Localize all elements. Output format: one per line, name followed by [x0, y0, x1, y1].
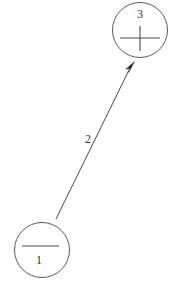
edge-node1-to-node3[interactable] [56, 62, 135, 220]
node-1[interactable]: 1 [15, 223, 70, 278]
edge-label-2: 2 [85, 132, 91, 146]
node-3[interactable]: 3 [113, 3, 168, 58]
node-1-circle [15, 223, 70, 278]
diagram-canvas: 2 3 1 [0, 0, 185, 282]
arrowhead-icon [126, 62, 135, 73]
diagram-svg: 2 3 1 [0, 0, 185, 282]
edge-line [56, 66, 131, 219]
node-1-label: 1 [36, 253, 42, 267]
node-3-label: 3 [137, 7, 143, 21]
